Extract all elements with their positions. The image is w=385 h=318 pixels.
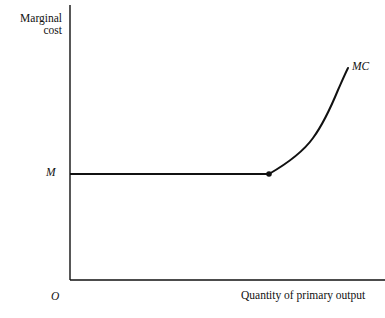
kink-point-marker — [266, 171, 272, 177]
origin-label: O — [51, 290, 59, 302]
mc-curve-label: MC — [352, 60, 369, 72]
plot-area — [0, 0, 385, 318]
y-axis-title: Marginalcost — [0, 12, 62, 36]
x-axis-title: Quantity of primary output — [241, 289, 365, 301]
y-axis-title-line1: Marginal — [20, 12, 62, 24]
marginal-cost-figure: Marginalcost M O MC Quantity of primary … — [0, 0, 385, 318]
y-axis-title-line2: cost — [43, 24, 62, 36]
y-axis-tick-label-m: M — [46, 166, 56, 178]
mc-rising-curve — [269, 68, 348, 174]
